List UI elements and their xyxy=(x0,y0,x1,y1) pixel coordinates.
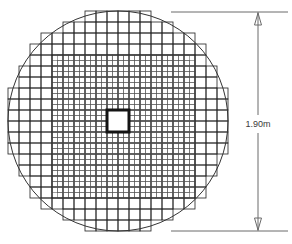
figure-root: 1.90m xyxy=(0,0,292,244)
mesh-diagram: 1.90m xyxy=(0,0,292,244)
dimension-label: 1.90m xyxy=(245,119,270,129)
central-square-hole xyxy=(107,110,129,132)
